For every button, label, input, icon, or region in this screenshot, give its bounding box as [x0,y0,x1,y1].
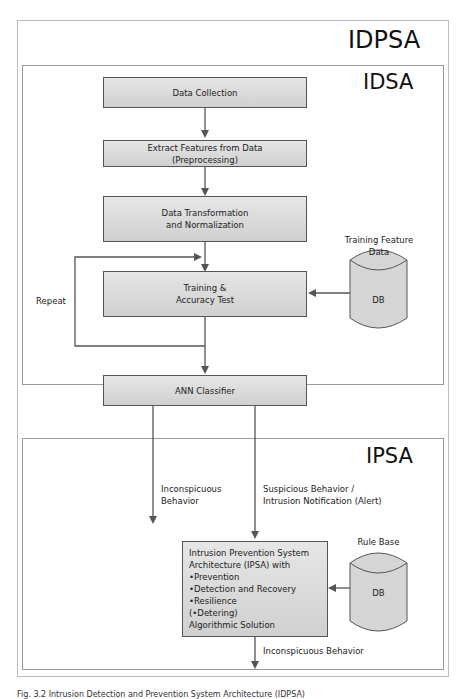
rule-base-caption: Rule Base [350,536,407,548]
step-ann-classifier: ANN Classifier [103,375,307,406]
step-extract-features: Extract Features from Data (Preprocessin… [103,140,307,167]
ipsa-system-text: Intrusion Prevention System Architecture… [189,547,309,631]
step-data-transformation: Data Transformation and Normalization [103,196,307,242]
step-label: Data Collection [172,87,237,99]
training-db-label: DB [350,294,407,306]
repeat-label: Repeat [36,295,66,307]
suspicious-behavior-label: Suspicious Behavior / Intrusion Notifica… [263,483,382,507]
inconspicuous-behavior-label: Inconspicuous Behavior [161,483,221,507]
ipsa-system-box: Intrusion Prevention System Architecture… [182,541,328,637]
step-label: Training & Accuracy Test [176,282,234,306]
step-label: Extract Features from Data (Preprocessin… [147,142,262,166]
training-db-cylinder [350,250,407,328]
step-label: Data Transformation and Normalization [162,207,249,231]
step-data-collection: Data Collection [103,77,307,108]
figure-caption: Fig. 3.2 Intrusion Detection and Prevent… [17,690,305,699]
rule-base-db-label: DB [350,587,407,599]
step-label: ANN Classifier [175,385,235,397]
step-training-accuracy: Training & Accuracy Test [103,271,307,317]
output-inconspicuous-label: Inconspicuous Behavior [263,645,364,657]
training-db-caption: Training Feature Data [340,234,418,258]
